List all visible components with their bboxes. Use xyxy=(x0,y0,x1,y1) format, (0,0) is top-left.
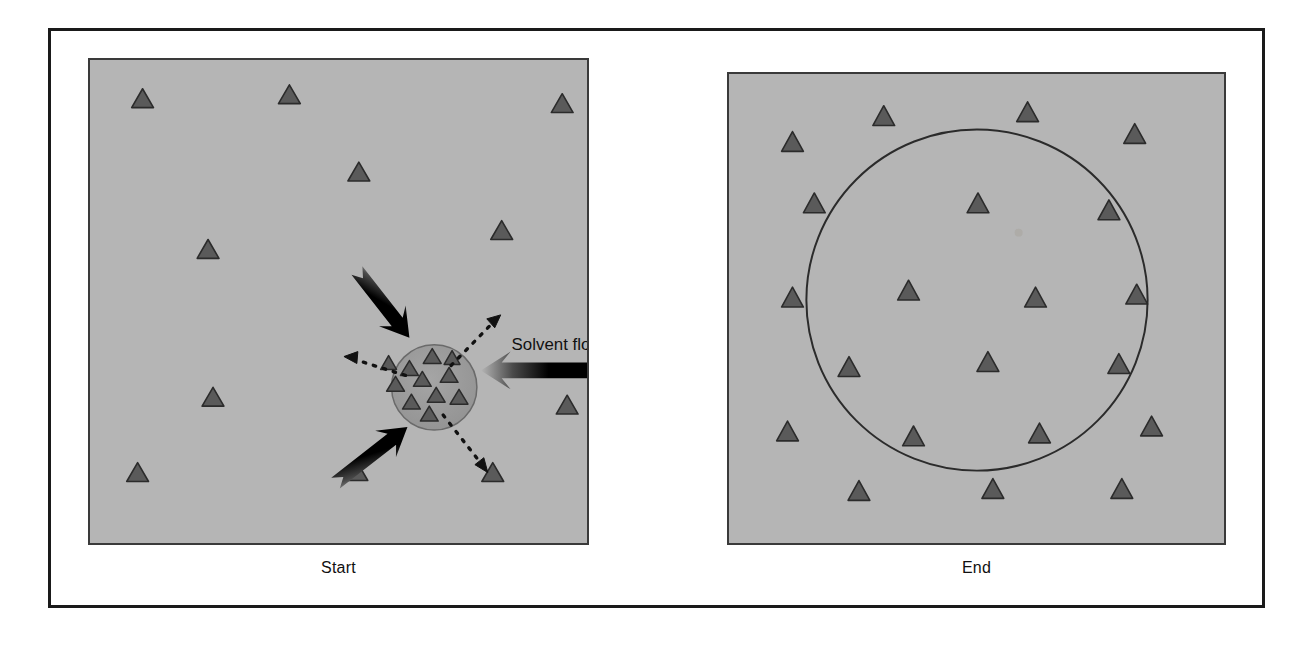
start-caption-text: Start xyxy=(321,559,356,576)
solvent-flow-arrow-top-left xyxy=(344,260,423,348)
analyte-triangle xyxy=(777,421,799,441)
end-caption-text: End xyxy=(962,559,991,576)
analyte-triangle xyxy=(202,387,224,406)
analyte-triangle xyxy=(1025,287,1047,307)
analyte-triangle xyxy=(838,357,860,377)
analyte-triangle xyxy=(1017,102,1039,122)
analyte-triangle xyxy=(132,89,154,108)
analyte-triangle xyxy=(1141,416,1163,436)
analyte-triangle xyxy=(803,193,825,213)
end-panel-graphics xyxy=(729,74,1224,543)
start-panel: Solvent flow xyxy=(88,58,589,545)
analyte-triangle xyxy=(982,479,1004,499)
start-panel-caption: Start xyxy=(88,559,589,577)
start-panel-graphics: Solvent flow xyxy=(90,60,587,543)
analyte-triangle xyxy=(848,481,870,501)
analyte-triangle xyxy=(1126,284,1148,304)
analyte-triangle xyxy=(898,280,920,300)
analyte-triangle xyxy=(491,221,513,240)
analyte-triangle xyxy=(551,94,573,113)
analyte-triangle xyxy=(782,287,804,307)
analyte-triangle xyxy=(1111,479,1133,499)
dispersion-arrow-left xyxy=(344,352,406,376)
analyte-triangle xyxy=(873,106,895,126)
dispersion-arrow-up-right xyxy=(451,315,501,366)
analyte-triangle xyxy=(1108,354,1130,374)
end-panel-caption: End xyxy=(727,559,1226,577)
start-panel-group: Solvent flow Start xyxy=(51,31,611,605)
analyte-triangle xyxy=(903,426,925,446)
solvent-flow-arrow-bottom-left xyxy=(325,414,418,497)
scan-artifact-speck xyxy=(1015,229,1023,237)
analyte-triangle xyxy=(977,352,999,372)
analyte-triangle xyxy=(127,463,149,482)
solvent-flow-label: Solvent flow xyxy=(512,335,587,354)
analyte-triangle xyxy=(556,395,578,414)
end-triangles xyxy=(777,102,1163,501)
analyte-triangle xyxy=(197,240,219,259)
figure-outer-frame: Solvent flow Start xyxy=(48,28,1265,608)
analyte-triangle xyxy=(278,85,300,104)
end-panel-group: End xyxy=(651,31,1261,605)
analyte-triangle xyxy=(1124,124,1146,144)
analyte-triangle xyxy=(967,193,989,213)
solvent-flow-arrow-right xyxy=(481,352,587,390)
dispersion-arrow-down-right xyxy=(443,415,488,473)
analyte-triangle xyxy=(1029,423,1051,443)
analyte-triangle xyxy=(348,162,370,181)
figure-stage: Solvent flow Start xyxy=(0,0,1302,647)
dispersed-zone-circle xyxy=(806,130,1147,471)
start-outer-triangles xyxy=(127,85,578,482)
analyte-triangle xyxy=(782,132,804,152)
end-panel xyxy=(727,72,1226,545)
